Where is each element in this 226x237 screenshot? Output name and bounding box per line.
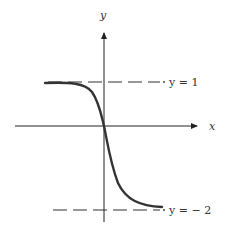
asymptote-y-2-dot xyxy=(163,209,165,211)
asymptote-y1-label: y = 1 xyxy=(168,76,198,89)
y-axis-label: y xyxy=(99,9,107,22)
asymptote-y-2-label: y = − 2 xyxy=(168,204,211,217)
function-graph: y x y = 1 y = − 2 xyxy=(0,0,226,237)
asymptote-y1-dot xyxy=(163,81,165,83)
x-axis-label: x xyxy=(209,120,216,133)
